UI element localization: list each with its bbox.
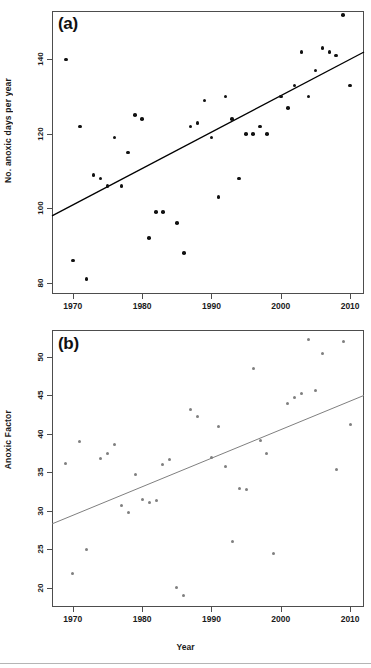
data-point [342,340,345,343]
data-point [217,195,221,199]
trend-line [0,0,371,326]
data-point [64,58,68,62]
figure-canvas: 8010012014019701980199020002010 (a) No. … [0,0,371,668]
data-point [321,46,325,50]
data-point [230,117,234,121]
data-point [134,473,137,476]
data-point [127,511,130,514]
data-point [92,173,96,177]
data-point [140,117,144,121]
data-point [78,125,82,129]
footer-divider [0,663,371,664]
data-point [286,106,290,110]
data-point [252,367,255,370]
panel-a-y-axis-label: No. anoxic days per year [3,78,13,183]
data-point [189,408,192,411]
data-point [328,50,332,54]
trend-line [0,326,371,668]
data-point [238,487,241,490]
data-point [120,184,124,188]
data-point [341,13,345,17]
data-point [258,125,262,129]
data-point [161,210,165,214]
data-point [251,132,255,136]
data-point [314,389,317,392]
data-point [244,132,248,136]
panel-b-tag: (b) [58,334,79,354]
panel-a: 8010012014019701980199020002010 [0,0,371,326]
data-point [279,95,283,99]
data-point [147,236,151,240]
data-point [71,259,75,263]
data-point [106,452,109,455]
data-point [335,468,338,471]
data-point [133,113,137,117]
x-axis-label: Year [0,642,371,652]
panel-b-y-axis-label: Anoxic Factor [3,410,13,469]
data-point [155,499,158,502]
data-point [85,548,88,551]
data-point [245,488,248,491]
data-point [231,540,234,543]
data-point [99,457,102,460]
data-point [154,210,158,214]
data-point [141,498,144,501]
data-point [286,402,289,405]
data-point [265,132,269,136]
data-point [224,465,227,468]
data-point [106,184,110,188]
data-point [217,425,220,428]
data-point [175,221,179,225]
data-point [148,501,151,504]
data-point [196,121,200,125]
data-point [182,251,186,255]
data-point [349,423,352,426]
data-point [307,338,310,341]
data-point [259,439,262,442]
panel-b: 2025303540455019701980199020002010 [0,326,371,668]
panel-a-tag: (a) [58,14,78,34]
data-point [120,504,123,507]
